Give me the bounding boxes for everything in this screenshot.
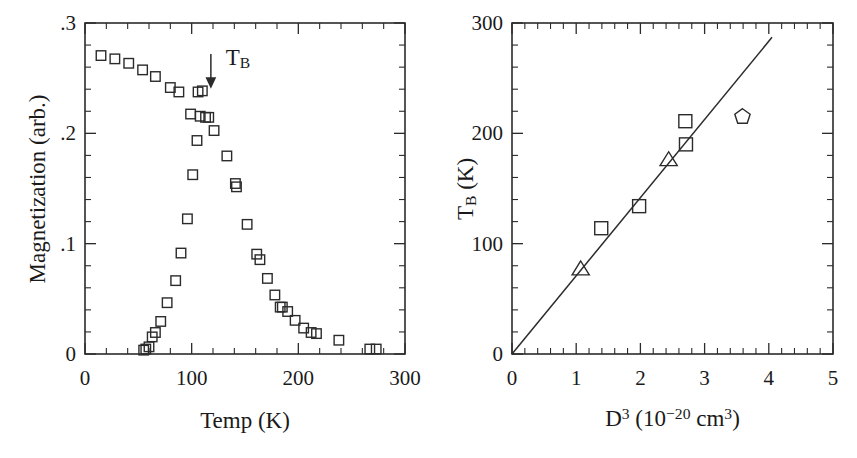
series-zero-field-cooled-branch xyxy=(139,86,207,355)
left-xtick-label-2: 200 xyxy=(283,368,315,389)
right-xtick-label-0: 0 xyxy=(507,368,518,389)
panel-tb-vs-dcubed: 0 100 200 300 0 1 2 3 4 5 D3 (10−20 cm3)… xyxy=(430,0,857,458)
data-point-square xyxy=(679,115,692,128)
linear-fit-line xyxy=(512,37,772,354)
blocking-temperature-arrow xyxy=(207,54,215,87)
data-point-square xyxy=(252,249,261,259)
data-point-pentagon xyxy=(735,109,750,124)
right-xtick-label-4: 4 xyxy=(764,368,775,389)
left-ytick-label-2: .2 xyxy=(60,123,76,144)
right-ytick-label-0: 0 xyxy=(493,344,504,365)
data-point-square xyxy=(156,317,166,327)
axis-frame xyxy=(85,23,405,354)
data-point-square xyxy=(365,344,375,354)
data-point-square xyxy=(679,138,692,151)
arrow-head xyxy=(207,78,215,87)
data-point-square xyxy=(138,65,148,75)
right-xtick-label-5: 5 xyxy=(828,368,839,389)
right-xtick-label-2: 2 xyxy=(635,368,646,389)
left-ytick-label-3: .3 xyxy=(60,13,76,34)
series-square-samples xyxy=(595,115,693,235)
data-point-square xyxy=(151,72,161,82)
data-point-square xyxy=(263,274,273,284)
right-xtick-label-3: 3 xyxy=(699,368,710,389)
data-point-square xyxy=(171,276,181,286)
data-point-square xyxy=(186,109,196,119)
series-field-cooled-branch xyxy=(96,51,381,354)
left-xtick-label-1: 100 xyxy=(176,368,208,389)
data-point-square xyxy=(176,248,186,257)
right-y-axis-title: TB (K) xyxy=(454,157,479,219)
right-ytick-label-3: 300 xyxy=(472,13,504,34)
data-point-square xyxy=(183,214,193,224)
series-triangle-samples xyxy=(572,152,677,275)
data-point-square xyxy=(124,59,134,69)
right-ytick-label-1: 100 xyxy=(472,233,504,254)
data-point-square xyxy=(334,335,344,345)
magnetization-plot-canvas xyxy=(0,0,430,458)
data-point-square xyxy=(371,344,381,354)
series-pentagon-sample xyxy=(735,109,750,124)
figure-root: 0 .1 .2 .3 0 100 200 300 Temp (K) Magnet… xyxy=(0,0,857,458)
left-xtick-label-0: 0 xyxy=(80,368,91,389)
right-xtick-label-1: 1 xyxy=(571,368,582,389)
blocking-temperature-label: TB xyxy=(226,46,250,71)
left-xtick-label-3: 300 xyxy=(389,368,421,389)
left-ytick-label-1: .1 xyxy=(60,233,76,254)
data-point-square xyxy=(270,290,280,300)
data-point-square xyxy=(110,54,120,64)
data-point-square xyxy=(242,220,252,230)
left-ytick-label-0: 0 xyxy=(66,344,77,365)
right-x-axis-title: D3 (10−20 cm3) xyxy=(605,406,740,430)
left-x-axis-title: Temp (K) xyxy=(200,409,290,432)
data-point-square xyxy=(162,298,172,308)
data-point-square xyxy=(188,170,198,180)
data-point-square xyxy=(595,222,608,235)
axis-frame xyxy=(512,23,833,354)
data-point-square xyxy=(633,200,646,213)
data-point-square xyxy=(96,51,106,61)
data-point-square xyxy=(192,136,202,146)
panel-magnetization-vs-temp: 0 .1 .2 .3 0 100 200 300 Temp (K) Magnet… xyxy=(0,0,430,458)
data-point-square xyxy=(222,151,232,161)
right-ytick-label-2: 200 xyxy=(472,123,504,144)
data-point-square xyxy=(209,126,219,136)
left-y-axis-title: Magnetization (arb.) xyxy=(26,94,49,283)
data-point-square xyxy=(255,255,265,265)
